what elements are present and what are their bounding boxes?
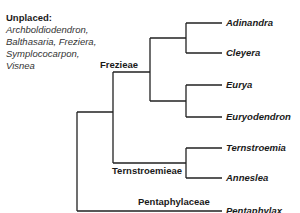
taxon-pentaphylax: Pentaphylax [226, 205, 282, 213]
clade-label-frezieae: Frezieae [100, 59, 138, 70]
taxon-anneslea: Anneslea [226, 172, 268, 183]
taxon-cleyera: Cleyera [226, 47, 260, 58]
taxon-euryodendron: Euryodendron [226, 111, 291, 122]
clade-label-ternstroemieae: Ternstroemieae [112, 165, 182, 176]
taxon-adinandra: Adinandra [226, 17, 273, 28]
taxon-ternstroemia: Ternstroemia [226, 142, 286, 153]
taxon-eurya: Eurya [226, 79, 252, 90]
clade-label-pentaphylaceae: Pentaphylaceae [138, 196, 210, 207]
